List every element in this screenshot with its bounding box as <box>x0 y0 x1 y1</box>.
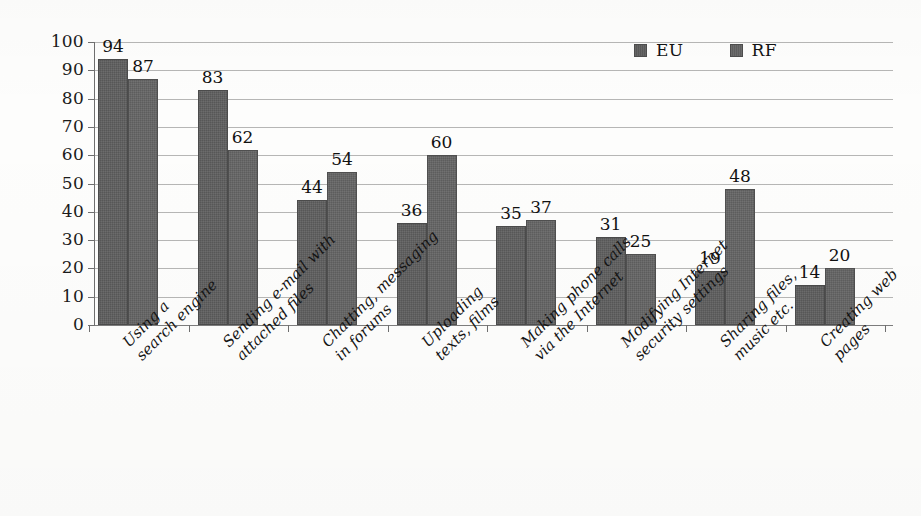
x-tick-mark <box>388 325 389 332</box>
y-tick-label: 80 <box>42 90 84 107</box>
bar-value-label: 87 <box>122 58 164 75</box>
bar-value-label: 54 <box>321 151 363 168</box>
bar-rf-0 <box>128 79 158 325</box>
bar-value-label: 62 <box>222 129 264 146</box>
y-tick-mark <box>88 155 95 156</box>
legend-label: EU <box>656 42 684 59</box>
y-tick-label: 0 <box>42 316 84 333</box>
x-tick-mark <box>89 325 90 332</box>
legend-label: RF <box>752 42 777 59</box>
y-tick-label: 50 <box>42 175 84 192</box>
bar-value-label: 20 <box>819 247 861 264</box>
y-tick-label: 90 <box>42 61 84 78</box>
y-tick-label: 10 <box>42 288 84 305</box>
legend-item-rf: RF <box>730 42 777 59</box>
bar-eu-4 <box>496 226 526 325</box>
bar-value-label: 31 <box>590 216 632 233</box>
y-tick-label: 40 <box>42 203 84 220</box>
bar-value-label: 37 <box>520 199 562 216</box>
x-tick-mark <box>885 325 886 332</box>
x-tick-mark <box>786 325 787 332</box>
y-tick-label: 70 <box>42 118 84 135</box>
x-tick-mark <box>189 325 190 332</box>
bar-chart-figure: 1009080706050403020100 94878362445436603… <box>0 0 921 516</box>
y-tick-mark <box>88 42 95 43</box>
y-tick-mark <box>88 268 95 269</box>
y-tick-label: 20 <box>42 259 84 276</box>
y-tick-label: 60 <box>42 146 84 163</box>
y-tick-mark <box>88 99 95 100</box>
y-tick-label: 100 <box>42 33 84 50</box>
y-axis-tick-labels: 1009080706050403020100 <box>36 0 84 516</box>
y-tick-mark <box>88 184 95 185</box>
bar-value-label: 60 <box>421 134 463 151</box>
y-tick-mark <box>88 70 95 71</box>
y-tick-mark <box>88 297 95 298</box>
y-tick-label: 30 <box>42 231 84 248</box>
legend-swatch-icon <box>634 44 647 57</box>
x-tick-mark <box>487 325 488 332</box>
bar-rf-1 <box>228 150 258 325</box>
chart-legend: EURF <box>634 38 777 62</box>
bar-value-label: 94 <box>92 38 134 55</box>
x-tick-mark <box>288 325 289 332</box>
bar-eu-0 <box>98 59 128 325</box>
bar-value-label: 83 <box>192 69 234 86</box>
y-tick-mark <box>88 212 95 213</box>
legend-swatch-icon <box>730 44 743 57</box>
y-tick-mark <box>88 127 95 128</box>
bar-value-label: 48 <box>719 168 761 185</box>
x-tick-mark <box>686 325 687 332</box>
y-tick-mark <box>88 325 95 326</box>
x-tick-mark <box>587 325 588 332</box>
legend-item-eu: EU <box>634 42 684 59</box>
y-tick-mark <box>88 240 95 241</box>
